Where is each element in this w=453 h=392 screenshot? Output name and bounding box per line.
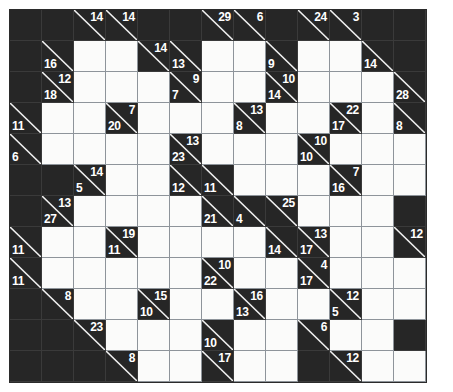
kakuro-entry-cell[interactable] [234, 320, 266, 351]
kakuro-entry-cell[interactable] [170, 227, 202, 258]
kakuro-entry-cell[interactable] [266, 258, 298, 289]
kakuro-entry-cell[interactable] [394, 289, 426, 320]
kakuro-entry-cell[interactable] [138, 72, 170, 103]
kakuro-entry-cell[interactable] [42, 258, 74, 289]
kakuro-entry-cell[interactable] [74, 289, 106, 320]
kakuro-entry-cell[interactable] [298, 196, 330, 227]
kakuro-entry-cell[interactable] [106, 41, 138, 72]
kakuro-entry-cell[interactable] [138, 134, 170, 165]
kakuro-entry-cell[interactable] [298, 165, 330, 196]
kakuro-entry-cell[interactable] [362, 134, 394, 165]
kakuro-entry-cell[interactable] [330, 134, 362, 165]
kakuro-entry-cell[interactable] [138, 196, 170, 227]
kakuro-entry-cell[interactable] [42, 103, 74, 134]
kakuro-entry-cell[interactable] [362, 196, 394, 227]
kakuro-block-cell [42, 351, 74, 382]
kakuro-entry-cell[interactable] [234, 41, 266, 72]
kakuro-entry-cell[interactable] [202, 41, 234, 72]
kakuro-entry-cell[interactable] [74, 103, 106, 134]
kakuro-entry-cell[interactable] [234, 165, 266, 196]
kakuro-entry-cell[interactable] [298, 41, 330, 72]
kakuro-entry-cell[interactable] [234, 227, 266, 258]
kakuro-entry-cell[interactable] [138, 165, 170, 196]
kakuro-block-cell [42, 320, 74, 351]
kakuro-entry-cell[interactable] [74, 258, 106, 289]
kakuro-entry-cell[interactable] [234, 351, 266, 382]
kakuro-entry-cell[interactable] [170, 196, 202, 227]
kakuro-entry-cell[interactable] [106, 165, 138, 196]
kakuro-entry-cell[interactable] [138, 258, 170, 289]
kakuro-entry-cell[interactable] [202, 227, 234, 258]
kakuro-entry-cell[interactable] [74, 227, 106, 258]
kakuro-entry-cell[interactable] [170, 320, 202, 351]
kakuro-entry-cell[interactable] [266, 351, 298, 382]
kakuro-entry-cell[interactable] [330, 41, 362, 72]
kakuro-entry-cell[interactable] [362, 258, 394, 289]
kakuro-entry-cell[interactable] [330, 258, 362, 289]
kakuro-entry-cell[interactable] [138, 227, 170, 258]
kakuro-entry-cell[interactable] [202, 103, 234, 134]
clue-down-value: 6 [257, 10, 263, 24]
kakuro-entry-cell[interactable] [202, 72, 234, 103]
kakuro-entry-cell[interactable] [74, 134, 106, 165]
kakuro-entry-cell[interactable] [362, 165, 394, 196]
kakuro-entry-cell[interactable] [170, 351, 202, 382]
kakuro-entry-cell[interactable] [138, 320, 170, 351]
kakuro-entry-cell[interactable] [138, 351, 170, 382]
kakuro-entry-cell[interactable] [170, 289, 202, 320]
kakuro-entry-cell[interactable] [394, 351, 426, 382]
kakuro-entry-cell[interactable] [298, 72, 330, 103]
kakuro-entry-cell[interactable] [234, 72, 266, 103]
kakuro-entry-cell[interactable] [266, 165, 298, 196]
kakuro-block-cell [42, 165, 74, 196]
kakuro-entry-cell[interactable] [362, 289, 394, 320]
kakuro-entry-cell[interactable] [202, 289, 234, 320]
kakuro-entry-cell[interactable] [362, 103, 394, 134]
kakuro-entry-cell[interactable] [106, 196, 138, 227]
kakuro-clue-cell: 14 [266, 227, 298, 258]
kakuro-entry-cell[interactable] [330, 196, 362, 227]
clue-across-value: 12 [172, 181, 185, 195]
kakuro-entry-cell[interactable] [266, 289, 298, 320]
kakuro-entry-cell[interactable] [298, 289, 330, 320]
kakuro-entry-cell[interactable] [394, 258, 426, 289]
kakuro-clue-cell: 12 [170, 165, 202, 196]
kakuro-entry-cell[interactable] [330, 227, 362, 258]
clue-across-value: 7 [172, 88, 178, 102]
kakuro-entry-cell[interactable] [394, 165, 426, 196]
kakuro-entry-cell[interactable] [106, 258, 138, 289]
kakuro-grid[interactable]: 1414296243161413914121897101428117201382… [10, 10, 426, 382]
kakuro-entry-cell[interactable] [266, 320, 298, 351]
kakuro-entry-cell[interactable] [234, 258, 266, 289]
kakuro-entry-cell[interactable] [106, 134, 138, 165]
kakuro-entry-cell[interactable] [330, 320, 362, 351]
kakuro-entry-cell[interactable] [362, 227, 394, 258]
kakuro-entry-cell[interactable] [42, 227, 74, 258]
kakuro-entry-cell[interactable] [74, 196, 106, 227]
kakuro-entry-cell[interactable] [42, 134, 74, 165]
kakuro-entry-cell[interactable] [362, 351, 394, 382]
kakuro-entry-cell[interactable] [362, 72, 394, 103]
kakuro-entry-cell[interactable] [106, 289, 138, 320]
kakuro-entry-cell[interactable] [234, 134, 266, 165]
kakuro-entry-cell[interactable] [74, 41, 106, 72]
kakuro-entry-cell[interactable] [394, 134, 426, 165]
clue-down-value: 9 [193, 72, 199, 86]
kakuro-entry-cell[interactable] [266, 134, 298, 165]
kakuro-entry-cell[interactable] [298, 103, 330, 134]
kakuro-entry-cell[interactable] [362, 320, 394, 351]
kakuro-entry-cell[interactable] [106, 320, 138, 351]
clue-down-value: 7 [129, 103, 135, 117]
kakuro-entry-cell[interactable] [202, 134, 234, 165]
kakuro-entry-cell[interactable] [170, 103, 202, 134]
kakuro-entry-cell[interactable] [74, 72, 106, 103]
kakuro-clue-cell: 3 [330, 10, 362, 41]
kakuro-entry-cell[interactable] [330, 72, 362, 103]
kakuro-entry-cell[interactable] [106, 72, 138, 103]
kakuro-entry-cell[interactable] [138, 103, 170, 134]
clue-down-value: 13 [314, 227, 327, 241]
kakuro-clue-cell: 28 [394, 72, 426, 103]
clue-across-value: 6 [12, 150, 18, 164]
kakuro-entry-cell[interactable] [266, 103, 298, 134]
kakuro-entry-cell[interactable] [170, 258, 202, 289]
